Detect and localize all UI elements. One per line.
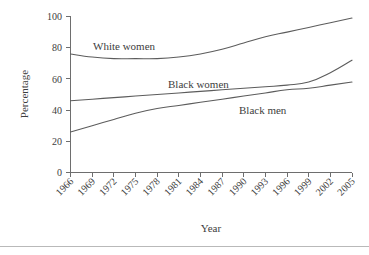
x-axis-title: Year [201,222,222,234]
x-tick-label-1978: 1978 [140,176,162,198]
chart-figure: 0 20 40 60 80 100 1966 1969 1972 1975 19 [0,0,369,255]
x-tick-label-1966: 1966 [53,176,75,198]
x-axis-ticks [71,173,353,178]
y-axis-ticks [66,17,71,173]
footer-divider [0,246,369,247]
y-tick-label-0: 0 [57,167,62,178]
x-tick-label-1996: 1996 [270,176,292,198]
x-tick-label-2002: 2002 [313,176,335,198]
series-line-white-women [71,18,353,59]
x-tick-label-1999: 1999 [292,176,314,198]
x-tick-label-1969: 1969 [75,176,97,198]
y-tick-label-100: 100 [47,11,62,22]
series-label-white-women: White women [93,40,156,52]
y-axis-title: Percentage [18,70,30,118]
x-tick-label-1993: 1993 [248,176,270,198]
x-tick-label-1990: 1990 [227,176,249,198]
x-tick-label-1987: 1987 [205,176,227,198]
y-tick-label-60: 60 [52,74,62,85]
x-tick-label-2005: 2005 [335,176,357,198]
x-tick-label-1975: 1975 [118,176,140,198]
line-chart: 0 20 40 60 80 100 1966 1969 1972 1975 19 [0,0,369,255]
x-tick-label-1984: 1984 [183,176,205,198]
y-tick-label-20: 20 [52,136,62,147]
y-tick-label-80: 80 [52,42,62,53]
series-label-black-men: Black men [239,104,287,116]
x-tick-label-1972: 1972 [97,176,119,198]
x-tick-label-1981: 1981 [162,176,184,198]
y-tick-label-40: 40 [52,105,62,116]
series-label-black-women: Black women [168,78,229,90]
